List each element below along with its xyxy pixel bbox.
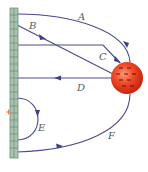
field-line-f: F [17, 94, 130, 152]
label-f: F [107, 130, 116, 141]
label-b: B [28, 20, 36, 31]
negatively-charged-sphere [111, 62, 143, 94]
field-line-e: E [17, 98, 46, 140]
label-c: C [99, 51, 107, 62]
charged-plate [10, 8, 18, 158]
label-e: E [37, 122, 46, 133]
arrow-icon [114, 56, 121, 63]
arrow-icon [54, 76, 61, 81]
field-line-d: D [17, 76, 111, 94]
label-d: D [76, 82, 85, 93]
field-line-diagram: A B C D E F [0, 0, 148, 172]
arrow-icon [39, 34, 46, 40]
field-line-c: C [17, 45, 121, 63]
label-a: A [77, 11, 85, 22]
arrow-icon [35, 110, 40, 117]
